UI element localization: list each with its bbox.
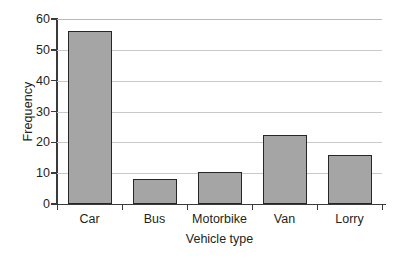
x-axis-tick-label: Van: [252, 211, 317, 227]
x-axis-tick: [252, 205, 253, 210]
y-axis-tick-labels: 0102030405060: [0, 0, 50, 259]
y-axis-tick: [51, 111, 56, 112]
y-axis-tick: [51, 203, 56, 204]
bar: [328, 155, 372, 204]
y-axis-tick: [51, 80, 56, 81]
y-axis-tick: [51, 142, 56, 143]
plot-area: [57, 19, 382, 204]
bar: [198, 172, 242, 204]
x-axis-tick: [382, 205, 383, 210]
y-axis-tick-label: 40: [26, 75, 50, 87]
gridline: [57, 19, 382, 20]
x-axis-tick-labels: CarBusMotorbikeVanLorry: [57, 211, 382, 229]
x-axis-tick-label: Bus: [122, 211, 187, 227]
y-axis-tick-label: 60: [26, 13, 50, 25]
x-axis-tick-label: Car: [57, 211, 122, 227]
x-axis-tick-label: Lorry: [317, 211, 382, 227]
x-axis-tick-label: Motorbike: [187, 211, 252, 227]
y-axis-tick: [51, 49, 56, 50]
bar: [263, 135, 307, 204]
y-axis-tick-label: 0: [26, 198, 50, 210]
bar-chart: Frequency 0102030405060 CarBusMotorbikeV…: [0, 0, 395, 259]
x-axis-tick: [57, 205, 58, 210]
y-axis-tick-label: 20: [26, 136, 50, 148]
x-axis-title: Vehicle type: [57, 231, 382, 247]
x-axis-tick: [317, 205, 318, 210]
y-axis-tick: [51, 172, 56, 173]
bar: [68, 31, 112, 204]
y-axis-tick-label: 50: [26, 44, 50, 56]
y-axis-tick: [51, 18, 56, 19]
bar: [133, 179, 177, 204]
y-axis-tick-label: 30: [26, 106, 50, 118]
x-axis-tick: [187, 205, 188, 210]
x-axis-tick: [122, 205, 123, 210]
y-axis-tick-label: 10: [26, 167, 50, 179]
